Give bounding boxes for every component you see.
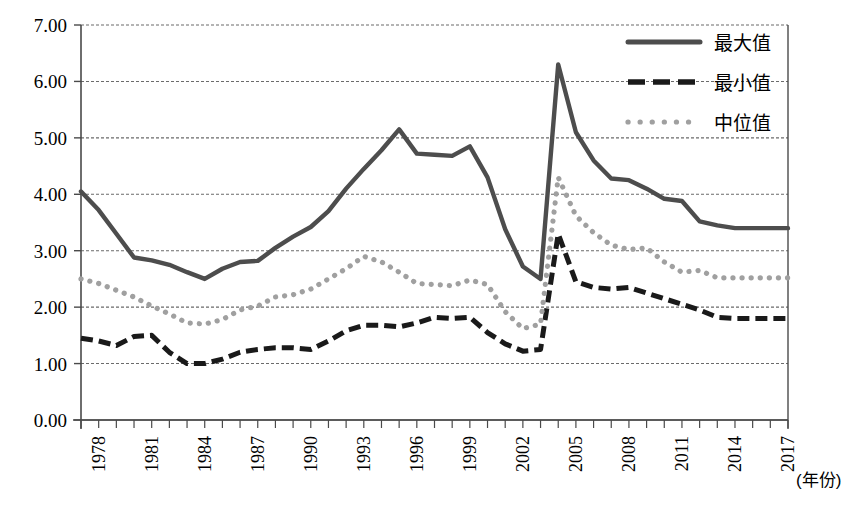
legend-item-1: 最大值 — [628, 33, 771, 54]
legend-label: 最小值 — [714, 73, 771, 94]
x-tick-label: 2005 — [566, 436, 586, 472]
x-tick-label: 1984 — [195, 436, 215, 472]
legend-label: 最大值 — [714, 33, 771, 54]
x-tick-label: 1978 — [89, 436, 109, 472]
y-tick-label: 4.00 — [34, 184, 67, 205]
x-axis-labels: 1978198119841987199019931996199920022005… — [89, 436, 798, 472]
x-tick-label: 1996 — [407, 436, 427, 472]
x-tick-label: 2002 — [513, 436, 533, 472]
y-tick-label: 0.00 — [34, 410, 67, 431]
x-tick-label: 2008 — [619, 436, 639, 472]
chart-container: 0.001.002.003.004.005.006.007.00 1978198… — [0, 0, 866, 532]
plot-frame — [73, 25, 788, 429]
x-axis-title-label: (年份) — [796, 471, 841, 490]
series-2 — [81, 234, 788, 364]
legend-label: 中位值 — [714, 113, 771, 134]
y-axis-ticks — [74, 25, 81, 420]
line-chart: 0.001.002.003.004.005.006.007.00 1978198… — [0, 0, 866, 532]
x-tick-label: 1990 — [301, 436, 321, 472]
data-series — [81, 65, 788, 364]
y-tick-label: 6.00 — [34, 71, 67, 92]
legend: 最大值最小值中位值 — [628, 33, 771, 134]
series-line-最小值 — [81, 234, 788, 364]
x-tick-label: 1987 — [248, 436, 268, 472]
y-axis-labels: 0.001.002.003.004.005.006.007.00 — [34, 15, 67, 431]
y-tick-label: 1.00 — [34, 354, 67, 375]
x-tick-label: 1999 — [460, 436, 480, 472]
legend-item-3: 中位值 — [628, 113, 771, 134]
x-tick-label: 2011 — [672, 436, 692, 471]
x-tick-label: 2017 — [778, 436, 798, 472]
x-axis-title: (年份) — [796, 471, 841, 490]
y-tick-label: 7.00 — [34, 15, 67, 36]
legend-item-2: 最小值 — [628, 73, 771, 94]
x-tick-label: 1993 — [354, 436, 374, 472]
y-tick-label: 5.00 — [34, 128, 67, 149]
series-1 — [81, 65, 788, 279]
y-tick-label: 3.00 — [34, 241, 67, 262]
x-tick-label: 1981 — [142, 436, 162, 472]
x-axis-ticks — [81, 420, 788, 428]
y-tick-label: 2.00 — [34, 297, 67, 318]
x-tick-label: 2014 — [725, 436, 745, 472]
series-line-最大值 — [81, 65, 788, 279]
